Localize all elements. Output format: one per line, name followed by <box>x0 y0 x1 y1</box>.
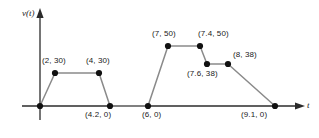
point-label-7-50: (7, 50) <box>152 30 176 38</box>
marker-6-0 <box>145 103 151 109</box>
marker-4p2-0 <box>107 103 113 109</box>
marker-8-38 <box>225 61 231 67</box>
point-label-2-30: (2, 30) <box>42 57 66 65</box>
x-axis-label: t <box>307 101 310 110</box>
marker-4-30 <box>96 70 102 76</box>
point-label-7p4-50: (7.4, 50) <box>198 30 229 38</box>
marker-7p6-38 <box>204 61 210 67</box>
point-label-4p2-0: (4.2, 0) <box>85 111 111 119</box>
point-label-4-30: (4, 30) <box>86 57 110 65</box>
marker-origin <box>37 103 43 109</box>
marker-7p4-50 <box>197 43 203 49</box>
marker-9p1-0 <box>272 103 278 109</box>
point-label-7p6-38: (7.6, 38) <box>187 70 218 78</box>
point-label-8-38: (8, 38) <box>233 51 257 59</box>
point-label-6-0: (6, 0) <box>142 111 161 119</box>
y-axis-label: v(t) <box>22 9 35 18</box>
marker-2-30 <box>52 70 58 76</box>
t-axis <box>22 102 305 109</box>
marker-7-50 <box>165 43 171 49</box>
velocity-time-graph-figure: v(t) t (2, 30) (4, 30) (4.2, 0) (6, 0) (… <box>0 0 319 138</box>
point-label-9p1-0: (9.1, 0) <box>241 111 267 119</box>
